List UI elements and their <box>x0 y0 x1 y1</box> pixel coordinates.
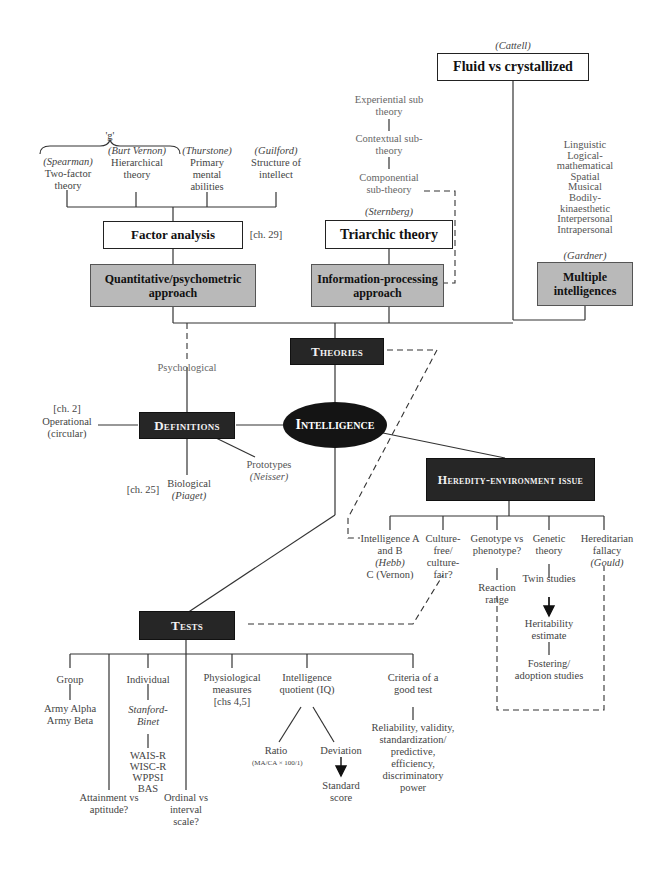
genetic-theory-item: Genetic theory <box>525 533 573 557</box>
gardner-intelligences-list: Linguistic Logical- mathematical Spatial… <box>545 140 625 235</box>
fluid-label: Fluid vs crystallized <box>453 59 573 75</box>
intelligence-node[interactable]: Intelligence <box>283 402 387 448</box>
hereditarian-fallacy-item: Hereditarian fallacy (Gould) <box>572 533 642 569</box>
definitions-box[interactable]: Definitions <box>139 412 235 439</box>
physiological-measures: Physiological measures [chs 4,5] <box>200 672 264 708</box>
criteria-items: Reliability, validity, standardization/ … <box>368 722 458 794</box>
ordinal-vs-interval: Ordinal vs interval scale? <box>160 792 212 828</box>
criteria-good-test: Criteria of a good test <box>383 672 443 696</box>
culture-free-item: Culture-free/ culture-fair? <box>422 533 464 581</box>
ratio-iq: Ratio (MA/CA × 100/1) <box>252 745 300 769</box>
stanford-binet: Stanford-Binet <box>118 704 178 728</box>
gardner-author: (Gardner) <box>545 250 625 262</box>
genotype-phenotype-item: Genotype vs phenotype? <box>467 533 527 557</box>
definitions-label: Definitions <box>154 418 220 434</box>
individual-test-examples: WAIS-R WISC-R WPPSI BAS <box>118 750 178 794</box>
guilford-theory: (Guilford) Structure of intellect <box>248 145 304 181</box>
prototypes-definition: Prototypes (Neisser) <box>240 459 298 483</box>
componential-subtheory: Componential sub-theory <box>349 172 429 196</box>
intelligence-label: Intelligence <box>296 417 375 433</box>
twin-studies: Twin studies <box>521 573 577 585</box>
biological-definition: Biological (Piaget) <box>160 478 218 502</box>
quantitative-approach-box[interactable]: Quantitative/psychometric approach <box>90 264 256 307</box>
intelligence-ab-item: Intelligence A and B (Hebb) C (Vernon) <box>357 533 423 581</box>
heredity-environment-box[interactable]: Heredity-environment issue <box>426 458 595 501</box>
theories-box[interactable]: Theories <box>290 338 384 365</box>
attainment-vs-aptitude: Attainment vs aptitude? <box>78 792 140 816</box>
contextual-subtheory: Contextual sub-theory <box>349 133 429 157</box>
triarchic-label: Triarchic theory <box>340 227 438 243</box>
tests-box[interactable]: Tests <box>139 611 235 640</box>
biological-ref: [ch. 25] <box>125 484 161 496</box>
ratio-formula: (MA/CA × 100/1) <box>252 757 300 769</box>
fluid-vs-crystallized-box[interactable]: Fluid vs crystallized <box>437 53 589 81</box>
g-label: 'g' <box>100 130 120 142</box>
heredity-label: Heredity-environment issue <box>438 473 584 487</box>
multiple-intelligences-label: Multiple intelligences <box>538 270 632 298</box>
operational-definition: Operational (circular) <box>36 416 98 440</box>
multiple-intelligences-box[interactable]: Multiple intelligences <box>537 262 633 306</box>
information-processing-label: Information-processing approach <box>316 272 439 300</box>
triarchic-theory-box[interactable]: Triarchic theory <box>325 220 453 249</box>
psychological-definition: Psychological <box>150 362 224 374</box>
factor-analysis-ref: [ch. 29] <box>246 229 286 241</box>
theories-label: Theories <box>311 344 363 360</box>
factor-analysis-box[interactable]: Factor analysis <box>103 221 243 249</box>
standard-score: Standard score <box>312 780 370 804</box>
information-processing-box[interactable]: Information-processing approach <box>311 264 444 307</box>
tests-label: Tests <box>171 618 203 634</box>
experiential-subtheory: Experiential sub theory <box>349 94 429 118</box>
cattell-author: (Cattell) <box>470 40 556 52</box>
deviation-iq: Deviation <box>312 745 370 757</box>
factor-analysis-label: Factor analysis <box>131 227 215 243</box>
operational-ref: [ch. 2] <box>36 403 98 415</box>
group-tests: Group <box>45 674 95 686</box>
thurstone-theory: (Thurstone) Primary mental abilities <box>176 145 238 193</box>
intelligence-quotient: Intelligence quotient (IQ) <box>272 672 342 696</box>
spearman-theory: (Spearman) Two-factor theory <box>36 156 100 192</box>
reaction-range: Reaction range <box>470 582 524 606</box>
heritability-estimate: Heritability estimate <box>514 618 584 642</box>
burt-vernon-theory: (Burt Vernon) Hierarchical theory <box>104 145 170 181</box>
group-test-examples: Army Alpha Army Beta <box>40 703 100 727</box>
quantitative-label: Quantitative/psychometric approach <box>97 272 249 300</box>
sternberg-author: (Sternberg) <box>349 206 429 218</box>
fostering-adoption-studies: Fostering/ adoption studies <box>514 658 584 682</box>
individual-tests: Individual <box>118 674 178 686</box>
